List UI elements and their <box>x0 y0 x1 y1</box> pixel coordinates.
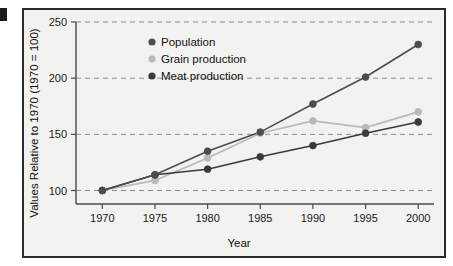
x-tick-label-2000: 2000 <box>406 212 430 224</box>
x-axis-tick-labels: 1970197519801985199019952000 <box>90 212 430 224</box>
data-point-marker <box>257 153 264 160</box>
x-axis-title: Year <box>227 237 250 249</box>
data-point-marker <box>415 108 422 115</box>
gridlines-group <box>76 22 434 191</box>
x-tick-label-1975: 1975 <box>143 212 167 224</box>
x-tick-label-1995: 1995 <box>353 212 377 224</box>
y-axis-tick-labels: 100150200250 <box>49 16 67 197</box>
x-tick-label-1985: 1985 <box>248 212 272 224</box>
data-point-marker <box>204 155 211 162</box>
data-point-marker <box>310 117 317 124</box>
x-tick-label-1970: 1970 <box>90 212 114 224</box>
line-chart-svg: 100150200250 197019751980198519901995200… <box>24 10 444 256</box>
data-point-marker <box>310 101 317 108</box>
chart-plot-area: 100150200250 197019751980198519901995200… <box>24 10 444 256</box>
y-tick-label-150: 150 <box>49 128 67 140</box>
data-point-marker <box>257 129 264 136</box>
data-series-group <box>99 41 422 194</box>
y-tick-label-200: 200 <box>49 72 67 84</box>
data-point-marker <box>362 74 369 81</box>
y-tick-label-250: 250 <box>49 16 67 28</box>
chart-figure-frame: 100150200250 197019751980198519901995200… <box>22 8 446 258</box>
legend-swatch-meat-production <box>148 72 155 79</box>
y-axis-title: Values Relative to 1970 (1970 = 100) <box>28 28 40 218</box>
axis-ticks-group <box>71 22 418 209</box>
legend-label-grain-production: Grain production <box>161 53 246 65</box>
y-tick-label-100: 100 <box>49 185 67 197</box>
data-point-marker <box>204 148 211 155</box>
legend-label-meat-production: Meat production <box>161 70 243 82</box>
data-point-marker <box>415 41 422 48</box>
data-point-marker <box>99 187 106 194</box>
cropped-text-fragment <box>0 8 7 21</box>
data-point-marker <box>152 171 159 178</box>
series-line-grain-production <box>102 112 418 191</box>
legend-swatch-grain-production <box>148 55 155 62</box>
legend-label-population: Population <box>161 36 215 48</box>
series-line-population <box>102 44 418 190</box>
data-point-marker <box>310 142 317 149</box>
legend-swatch-population <box>148 38 155 45</box>
data-point-marker <box>415 119 422 126</box>
chart-legend: PopulationGrain productionMeat productio… <box>148 36 246 82</box>
x-tick-label-1990: 1990 <box>301 212 325 224</box>
x-tick-label-1980: 1980 <box>195 212 219 224</box>
data-point-marker <box>204 166 211 173</box>
data-point-marker <box>362 130 369 137</box>
axes-group <box>76 22 434 204</box>
